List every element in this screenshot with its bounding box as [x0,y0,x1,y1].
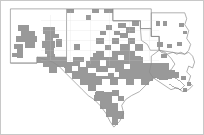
state-border-oklahoma [113,9,159,50]
county-cell [21,31,35,37]
county-cell [167,44,172,48]
county-cell [96,38,104,44]
county-cell [25,42,35,48]
county-cell [45,48,54,54]
county-cell [179,23,184,27]
county-cell [104,92,112,98]
state-group-louisiana[interactable] [149,42,194,91]
county-cell [74,44,80,50]
county-cell [112,90,119,96]
county-cell [56,39,62,47]
county-cell [16,36,37,42]
county-cell [171,72,179,78]
county-cell [128,38,136,44]
county-cell-empty [88,68,96,73]
choropleth-map[interactable]: South Central United States [1,1,203,134]
county-cell [181,76,186,80]
county-cell [106,25,112,30]
county-cell-empty [104,86,112,91]
county-cell [161,54,167,58]
county-cell [45,34,53,42]
county-cell [43,27,55,34]
county-cell [100,31,106,36]
county-cell [187,82,191,86]
county-cell [104,9,113,13]
county-cell-empty [96,72,108,76]
state-group-new-mexico[interactable] [10,9,66,63]
county-cell [12,53,18,57]
county-cell [42,41,55,48]
county-cluster [37,45,157,90]
county-cell [112,38,119,44]
county-cell [156,21,160,26]
county-cell [14,44,23,49]
county-cell [120,33,128,39]
county-cell [112,60,122,68]
county-cell [118,23,126,28]
county-cell [126,27,136,33]
county-cell [53,34,59,39]
county-cell [132,21,140,26]
county-cell-empty [100,60,106,66]
county-cell [114,31,120,36]
county-cell-empty [114,72,119,77]
county-cell [157,42,163,47]
county-cell [183,31,187,35]
county-cell-empty [72,66,78,71]
county-cell-empty [80,62,86,67]
county-cell [118,96,124,102]
county-cell [177,42,182,46]
county-cell [139,66,153,75]
map-figure-frame: South Central United States [0,0,204,135]
county-cell [86,15,91,20]
county-cell-empty [124,64,130,69]
county-cell-empty [108,68,115,73]
county-cell [92,9,99,13]
county-cell-empty [118,55,124,60]
county-cell [18,25,29,31]
county-cell [163,21,167,26]
